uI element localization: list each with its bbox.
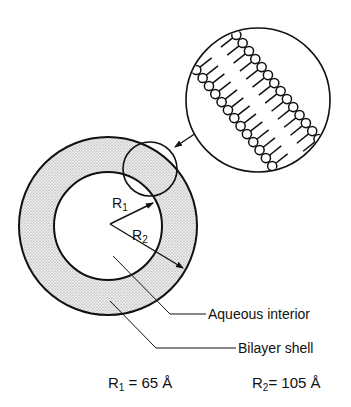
lipid-head [320,143,329,152]
lipid-head [223,105,232,114]
magnified-bilayer-view [179,14,330,186]
lipid-head [289,102,298,111]
lipid-head [230,113,239,122]
lipid-head [261,153,270,162]
lipid-tail [208,22,220,31]
lipid-head [179,49,188,58]
lipid-head [242,129,251,138]
lipid-tail [187,42,199,51]
lipid-head [308,126,317,135]
lipid-head [211,89,220,98]
lipid-head [251,54,260,63]
lipid-head [270,78,279,87]
lipid-head [301,118,310,127]
lipid-head [280,178,289,187]
lipid-head [238,38,247,47]
magnify-pointer-arrow [175,133,196,147]
vesicle-diagram: R1 R2 Aqueous interior Bilayer shell R1 … [0,0,351,407]
aqueous-interior [54,172,162,280]
lipid-head [263,70,272,79]
lipid-head [257,62,266,71]
lipid-head [217,97,226,106]
lipid-head [274,169,283,178]
lipid-head [255,145,264,154]
lipid-head [276,86,285,95]
lipid-head [219,14,228,23]
lipid-head [295,110,304,119]
lipid-tail [288,170,300,179]
bilayer-shell-label: Bilayer shell [238,340,313,356]
r1-value: R1 = 65 Å [108,374,172,393]
lipid-head [198,73,207,82]
lipid-tail [309,150,321,159]
lipid-head [249,137,258,146]
lipid-head [282,94,291,103]
r2-value: R2= 105 Å [252,374,321,393]
lipid-head [236,121,245,130]
lipid-head [204,81,213,90]
lipid-head [185,57,194,66]
lipid-head [225,22,234,31]
aqueous-interior-label: Aqueous interior [208,306,310,322]
lipid-head [244,46,253,55]
